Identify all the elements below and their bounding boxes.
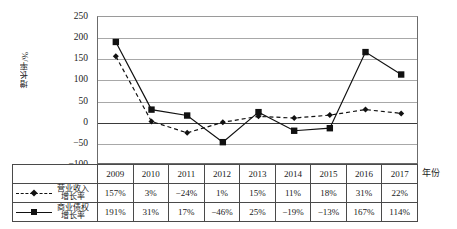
table-cell-value: 11% (275, 184, 311, 203)
y-tick-label: 50 (79, 96, 89, 106)
table-cell-value: 15% (240, 184, 276, 203)
table-cell-value: 17% (169, 203, 205, 222)
y-tick-label: 0 (83, 117, 88, 127)
growth-rate-chart: 增长率/% 250200150100500−50−100 20092010201… (0, 0, 457, 229)
table-row: 200920102011201220132014201520162017 (13, 165, 418, 184)
table-cell-value: 114% (382, 203, 418, 222)
table-row: 营业收入增长率157%3%−24%1%15%11%18%31%22% (13, 184, 418, 203)
data-point-marker (220, 119, 226, 125)
data-table-container: 200920102011201220132014201520162017营业收入… (12, 164, 418, 224)
y-axis-tick-labels: 250200150100500−50−100 (40, 12, 92, 164)
y-tick-label: 100 (74, 74, 88, 84)
data-point-marker (113, 39, 119, 45)
data-table: 200920102011201220132014201520162017营业收入… (12, 164, 418, 222)
data-point-marker (362, 49, 368, 55)
table-cell-value: 157% (98, 184, 134, 203)
data-point-marker (184, 112, 190, 118)
data-point-marker (255, 109, 261, 115)
table-cell-value: −19% (275, 203, 311, 222)
x-axis-title: 年份 (422, 166, 440, 179)
legend-label: 营业收入增长率 (52, 185, 96, 202)
legend-swatch-icon (16, 187, 52, 199)
y-tick-label: 200 (74, 32, 88, 42)
table-cell-value: 31% (346, 184, 382, 203)
table-header-year: 2012 (204, 165, 240, 184)
table-corner-blank (13, 165, 98, 184)
table-header-year: 2010 (133, 165, 169, 184)
table-cell-value: 1% (204, 184, 240, 203)
table-cell-value: 18% (311, 184, 347, 203)
table-header-year: 2011 (169, 165, 205, 184)
table-cell-value: 3% (133, 184, 169, 203)
data-point-marker (327, 125, 333, 131)
table-header-year: 2017 (382, 165, 418, 184)
y-tick-label: −50 (73, 138, 88, 148)
table-row: 商业债权增长率191%31%17%−46%25%−19%−13%167%114% (13, 203, 418, 222)
y-tick-label: 150 (74, 53, 88, 63)
plot-area (97, 16, 418, 164)
legend-item-1: 营业收入增长率 (13, 184, 98, 203)
table-header-year: 2015 (311, 165, 347, 184)
series-line-2 (116, 42, 401, 142)
table-header-year: 2009 (98, 165, 134, 184)
table-cell-value: 22% (382, 184, 418, 203)
data-point-marker (398, 71, 404, 77)
legend-label: 商业债权增长率 (52, 204, 96, 221)
data-point-marker (363, 107, 369, 113)
table-header-year: 2014 (275, 165, 311, 184)
legend-item-2: 商业债权增长率 (13, 203, 98, 222)
data-point-marker (291, 128, 297, 134)
data-point-marker (148, 106, 154, 112)
table-header-year: 2013 (240, 165, 276, 184)
table-cell-value: −13% (311, 203, 347, 222)
table-cell-value: 25% (240, 203, 276, 222)
data-point-marker (184, 130, 190, 136)
data-point-marker (291, 115, 297, 121)
data-point-marker (398, 110, 404, 116)
data-point-marker (149, 118, 155, 124)
table-cell-value: −46% (204, 203, 240, 222)
table-cell-value: 31% (133, 203, 169, 222)
table-cell-value: 191% (98, 203, 134, 222)
y-tick-label: 250 (74, 11, 88, 21)
table-header-year: 2016 (346, 165, 382, 184)
data-point-marker (220, 139, 226, 145)
data-point-marker (327, 112, 333, 118)
data-point-marker (113, 53, 119, 59)
table-cell-value: −24% (169, 184, 205, 203)
legend-swatch-icon (16, 206, 52, 218)
y-axis-title: 增长率/% (21, 52, 37, 88)
series-plot (98, 17, 418, 164)
table-cell-value: 167% (346, 203, 382, 222)
